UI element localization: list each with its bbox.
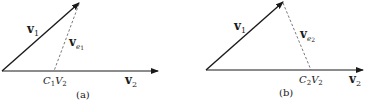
- caption-a: (a): [76, 89, 90, 100]
- vector-projection-diagram: v1 ve1 C1V2 v2 (a) v1 ve2 C2V2 v2 (b): [0, 0, 365, 103]
- vector-v1-arrow: [2, 3, 79, 71]
- v2-label: v2: [348, 72, 361, 88]
- c1v2-label: C1V2: [43, 75, 67, 88]
- v1-label: v1: [26, 22, 39, 38]
- vector-v1-arrow: [206, 2, 283, 70]
- caption-b: (b): [279, 87, 293, 98]
- c2v2-label: C2V2: [299, 74, 323, 87]
- v2-label: v2: [124, 73, 137, 89]
- ve1-label: ve1: [68, 35, 84, 51]
- v1-label: v1: [233, 19, 246, 35]
- panel-b: v1 ve2 C2V2 v2 (b): [206, 2, 363, 98]
- panel-a: v1 ve1 C1V2 v2 (a): [2, 3, 158, 100]
- ve2-label: ve2: [299, 27, 315, 43]
